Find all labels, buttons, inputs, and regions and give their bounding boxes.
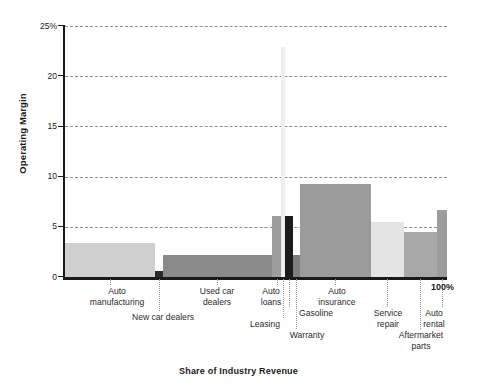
y-tick-mark-15	[58, 126, 64, 127]
y-tick-label-10: 10	[1, 171, 57, 181]
bar-gasoline	[285, 216, 293, 277]
y-tick-label-20: 20	[1, 71, 57, 81]
leader-line-0	[110, 279, 111, 285]
bar-used-car-dealers	[163, 255, 272, 277]
leader-line-3	[277, 279, 278, 285]
bar-new-car-dealers	[155, 271, 163, 277]
category-label-auto-insurance: Auto insurance	[304, 286, 370, 307]
category-label-auto-loans: Auto loans	[250, 286, 292, 307]
operating-margin-chart: Operating Margin 0510152025% Auto manufa…	[0, 0, 477, 392]
category-label-auto-manufacturing: Auto manufacturing	[80, 286, 154, 307]
y-axis-ticks: 0510152025%	[0, 0, 57, 392]
leader-line-1	[159, 279, 160, 311]
x-axis-line	[63, 277, 447, 280]
y-tick-mark-5	[58, 226, 64, 227]
bar-series	[65, 26, 447, 277]
x-axis-title: Share of Industry Revenue	[0, 366, 477, 376]
y-tick-label-0: 0	[1, 272, 57, 282]
bar-auto-loans	[272, 216, 281, 277]
bar-auto-rental	[437, 210, 447, 277]
y-tick-label-25: 25%	[1, 21, 57, 31]
y-tick-mark-0	[58, 276, 64, 277]
y-tick-label-15: 15	[1, 121, 57, 131]
bar-service-repair	[371, 222, 404, 277]
leader-line-8	[387, 279, 388, 307]
leader-line-7	[335, 279, 336, 285]
category-label-used-car-dealers: Used car dealers	[186, 286, 248, 307]
category-label-aftermarket-parts: Aftermarket parts	[383, 330, 459, 351]
y-tick-label-5: 5	[1, 221, 57, 231]
x-axis-end-label: 100%	[431, 282, 454, 292]
bar-aftermarket-parts	[404, 232, 437, 277]
bar-auto-manufacturing	[65, 243, 155, 277]
bar-auto-insurance	[300, 184, 371, 277]
bar-warranty	[293, 255, 300, 277]
y-tick-mark-25	[58, 25, 64, 26]
y-tick-mark-10	[58, 176, 64, 177]
category-label-service-repair: Service repair	[362, 308, 414, 329]
category-label-gasoline: Gasoline	[288, 308, 344, 319]
category-label-warranty: Warranty	[278, 330, 336, 341]
leader-line-6	[296, 279, 297, 329]
category-label-leasing: Leasing	[239, 319, 291, 330]
y-tick-mark-20	[58, 75, 64, 76]
category-label-auto-rental: Auto rental	[411, 308, 457, 329]
category-label-new-car-dealers: New car dealers	[113, 312, 213, 323]
leader-line-2	[217, 279, 218, 285]
